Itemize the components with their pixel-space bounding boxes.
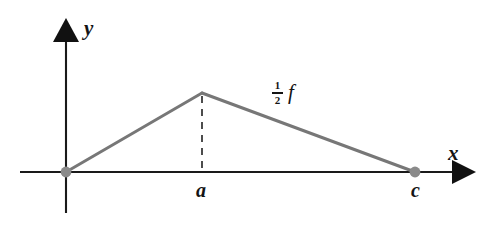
root-c-point-dot <box>410 167 421 178</box>
math-figure: y x a c 1 2 f <box>0 0 482 226</box>
function-symbol-f: f <box>288 80 294 105</box>
curve-segment-descending <box>202 93 415 172</box>
y-axis-arrowhead <box>53 18 79 42</box>
curve-annotation-half-f: 1 2 f <box>272 80 294 106</box>
fraction-denominator: 2 <box>274 95 282 106</box>
origin-point-dot <box>61 167 72 178</box>
fraction-numerator: 1 <box>274 80 282 91</box>
y-axis-label: y <box>84 18 93 39</box>
fraction-one-half: 1 2 <box>272 80 283 106</box>
curve-segment-ascending <box>66 93 202 172</box>
figure-canvas <box>0 0 482 226</box>
x-axis-label: x <box>448 143 459 164</box>
peak-abscissa-label: a <box>196 180 206 200</box>
root-c-label: c <box>411 180 420 200</box>
